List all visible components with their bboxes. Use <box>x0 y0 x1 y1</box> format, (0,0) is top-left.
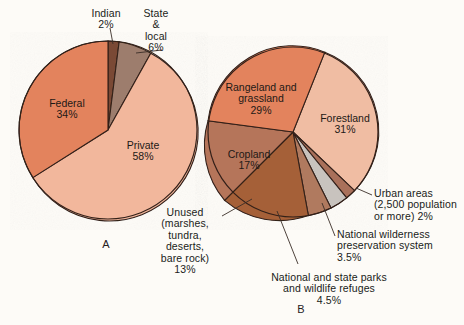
pie-b-label-wilderness: National wilderness preservation system … <box>337 229 455 263</box>
pie-a-panel-letter: A <box>96 238 116 250</box>
pie-b-label-urban: Urban areas (2,500 population or more) 2… <box>374 188 464 222</box>
pie-a-label-indian: Indian 2% <box>75 8 137 31</box>
pie-b-panel-letter: B <box>291 303 311 315</box>
leader-line-urban <box>356 188 372 195</box>
pie-a-label-federal: Federal 34% <box>32 98 102 121</box>
pie-b-label-unused: Unused (marshes, tundra, deserts, bare r… <box>148 207 222 275</box>
pie-chart-a <box>19 41 198 221</box>
pie-a-label-private: Private 58% <box>111 140 175 163</box>
pie-b-label-cropland: Cropland 17% <box>216 149 282 172</box>
pie-a-label-state-local: State & local 6% <box>131 8 181 54</box>
figure-container: Indian 2% State & local 6% Federal 34% P… <box>0 0 464 325</box>
pie-b-label-parks: National and state parks and wildlife re… <box>263 272 395 306</box>
pie-b-label-forestland: Forestland 31% <box>310 113 380 136</box>
pie-b-label-rangeland: Rangeland and grassland 29% <box>214 82 308 116</box>
